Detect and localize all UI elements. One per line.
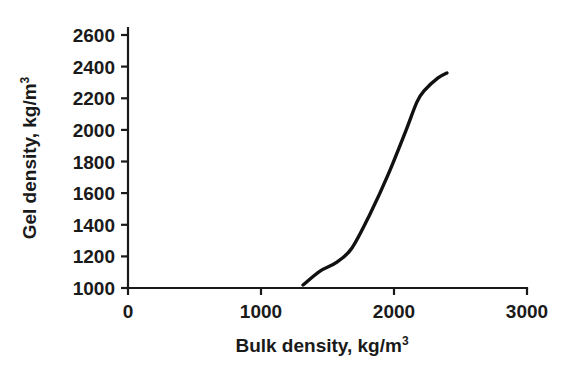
y-tick-label-1800: 1800	[73, 152, 115, 173]
y-tick-label-2600: 2600	[73, 25, 115, 46]
y-axis-title: Gel density, kg/m3	[18, 76, 40, 239]
x-tick-label-3000: 3000	[506, 301, 548, 322]
y-tick-label-1400: 1400	[73, 215, 115, 236]
y-tick-label-2400: 2400	[73, 57, 115, 78]
svg-text:Bulk density, kg/m3: Bulk density, kg/m3	[235, 334, 408, 356]
x-tick-label-2000: 2000	[373, 301, 415, 322]
y-axis-title-text: Gel density, kg/m	[19, 83, 40, 239]
x-axis-title-superscript: 3	[402, 334, 409, 348]
y-axis-title-superscript: 3	[18, 76, 32, 83]
chart-figure: 2600 2400 2200 2000 1800 1600 1400 1200 …	[0, 0, 577, 376]
axes-group	[128, 28, 527, 288]
y-tick-label-1200: 1200	[73, 246, 115, 267]
data-series-line	[303, 73, 447, 285]
y-tick-label-1000: 1000	[73, 278, 115, 299]
x-axis-title: Bulk density, kg/m3	[235, 334, 408, 356]
y-tick-label-2200: 2200	[73, 88, 115, 109]
x-tick-label-1000: 1000	[240, 301, 282, 322]
x-tick-label-0: 0	[123, 301, 134, 322]
y-tick-label-2000: 2000	[73, 120, 115, 141]
y-tick-label-1600: 1600	[73, 183, 115, 204]
y-tick-labels: 2600 2400 2200 2000 1800 1600 1400 1200 …	[73, 25, 115, 299]
svg-text:Gel density, kg/m3: Gel density, kg/m3	[18, 76, 40, 239]
x-tick-labels: 0 1000 2000 3000	[123, 301, 548, 322]
x-axis-title-text: Bulk density, kg/m	[235, 335, 401, 356]
chart-canvas: 2600 2400 2200 2000 1800 1600 1400 1200 …	[0, 0, 577, 376]
